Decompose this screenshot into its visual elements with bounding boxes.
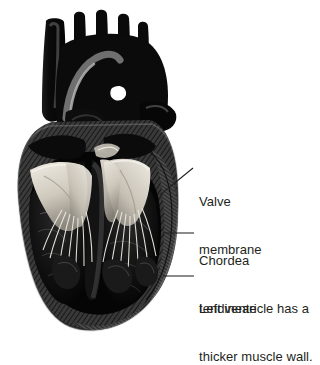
label-chordea-tendineae-line1: Chordea xyxy=(199,253,257,269)
label-left-ventricle-line2: thicker muscle wall. xyxy=(199,349,313,365)
label-left-ventricle-line1: Left ventricle has a xyxy=(199,301,313,317)
label-left-ventricle: Left ventricle has a thicker muscle wall… xyxy=(199,269,313,365)
label-valve-membrane-line1: Valve xyxy=(199,194,262,210)
aortic-valve-glint xyxy=(110,86,126,101)
